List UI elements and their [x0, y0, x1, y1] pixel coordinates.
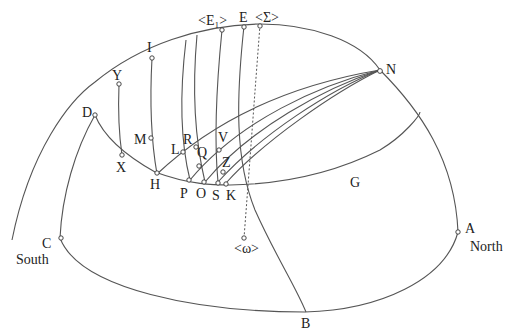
- left-edge-arc: [60, 115, 95, 238]
- label-south: South: [16, 252, 49, 267]
- label-omega: <ω>: [234, 241, 259, 256]
- dashed-sigma-omega: [244, 25, 260, 238]
- label-M: M: [134, 132, 147, 147]
- label-R: R: [183, 132, 193, 147]
- label-O: O: [196, 186, 206, 201]
- point-S: [216, 181, 220, 185]
- label-C: C: [42, 236, 51, 251]
- point-D: [93, 113, 97, 117]
- point-K: [224, 182, 228, 186]
- label-D: D: [82, 105, 92, 120]
- point-L: [181, 150, 185, 154]
- arc-N-O: [205, 70, 380, 182]
- label-Z: Z: [222, 155, 231, 170]
- label-X: X: [116, 160, 126, 175]
- point-P: [187, 178, 191, 182]
- label-B: B: [301, 316, 310, 331]
- sphere-diagram: <E₁> E <Σ> I Y D M X R L Q V H P O S Z K…: [0, 0, 518, 333]
- label-K: K: [226, 188, 236, 203]
- outer-upper-arc: [12, 24, 458, 240]
- arc-I-H: [151, 58, 157, 174]
- point-X: [120, 153, 124, 157]
- label-north: North: [470, 239, 503, 254]
- label-Sigma: <Σ>: [255, 10, 279, 25]
- point-Q: [197, 164, 201, 168]
- point-C: [59, 236, 63, 240]
- label-Q: Q: [197, 145, 207, 160]
- label-Y: Y: [112, 68, 122, 83]
- horizon-arc: [95, 112, 420, 185]
- arc-N-P: [190, 70, 380, 180]
- point-M: [149, 136, 153, 140]
- point-Z: [221, 170, 225, 174]
- label-E1: <E₁>: [198, 13, 227, 28]
- point-H: [155, 171, 159, 175]
- arc-Y-X: [119, 84, 122, 155]
- label-S: S: [212, 188, 220, 203]
- label-N: N: [386, 62, 396, 77]
- point-E1: [220, 28, 224, 32]
- point-A: [456, 230, 460, 234]
- label-G: G: [350, 175, 360, 190]
- point-omega: [242, 236, 246, 240]
- label-I: I: [147, 40, 152, 55]
- point-V: [217, 148, 221, 152]
- label-V: V: [218, 130, 228, 145]
- diagram-stage: <E₁> E <Σ> I Y D M X R L Q V H P O S Z K…: [0, 0, 518, 333]
- point-I: [150, 56, 154, 60]
- point-O: [202, 180, 206, 184]
- point-E: [242, 25, 246, 29]
- label-A: A: [465, 221, 476, 236]
- label-L: L: [171, 142, 180, 157]
- label-P: P: [180, 186, 188, 201]
- point-N: [378, 69, 383, 74]
- label-E: E: [239, 10, 248, 25]
- label-H: H: [150, 177, 160, 192]
- arc-R-P: [182, 40, 190, 180]
